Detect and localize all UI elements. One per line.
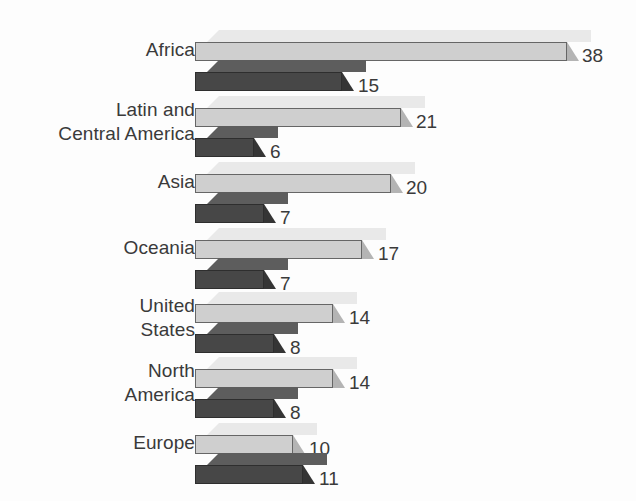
bar-side-face: [274, 322, 286, 353]
bar-top-face: [207, 126, 278, 138]
category-label: Latin and Central America: [5, 98, 195, 146]
bar-chart: Africa 38 15 Latin and Central America 2…: [0, 0, 636, 501]
bar-side-face: [333, 292, 345, 323]
bar-side-face: [254, 126, 266, 157]
category-label: Asia: [5, 170, 195, 194]
bar-side-face: [264, 192, 276, 223]
bar-side-face: [342, 60, 354, 91]
bar-front-face: [195, 435, 293, 454]
bar-front-face: [195, 270, 264, 289]
bar-value-label: 8: [290, 403, 301, 422]
bar-value-label: 7: [280, 274, 291, 293]
bar-value-label: 14: [349, 373, 370, 392]
bar-side-face: [293, 423, 305, 454]
bar-front-face: [195, 334, 274, 353]
bar-side-face: [401, 96, 413, 127]
bar-front-face: [195, 240, 362, 259]
bar-side-face: [391, 162, 403, 193]
bar-value-label: 6: [270, 142, 281, 161]
category-label: North America: [5, 359, 195, 407]
bar-front-face: [195, 42, 567, 61]
bar-side-face: [264, 258, 276, 289]
bar-front-face: [195, 108, 401, 127]
category-label: Africa: [5, 38, 195, 62]
bar-value-label: 15: [358, 76, 379, 95]
bar-front-face: [195, 369, 333, 388]
category-label: Europe: [5, 431, 195, 455]
bar-front-face: [195, 304, 333, 323]
bar-front-face: [195, 174, 391, 193]
bar-value-label: 14: [349, 308, 370, 327]
bar-value-label: 38: [582, 46, 603, 65]
bar-top-face: [207, 96, 425, 108]
bar-side-face: [333, 357, 345, 388]
bar-side-face: [274, 387, 286, 418]
bar-value-label: 7: [280, 208, 291, 227]
bar-value-label: 17: [378, 244, 399, 263]
bar-top-face: [207, 30, 591, 42]
bar-top-face: [207, 162, 415, 174]
bar-side-face: [567, 30, 579, 61]
bar-value-label: 11: [319, 469, 339, 488]
category-label: United States: [5, 294, 195, 342]
bar-front-face: [195, 138, 254, 157]
bar-top-face: [207, 228, 386, 240]
bar-value-label: 21: [416, 112, 437, 131]
bar-front-face: [195, 72, 342, 91]
bar-front-face: [195, 465, 303, 484]
bar-front-face: [195, 399, 274, 418]
bar-front-face: [195, 204, 264, 223]
bar-value-label: 20: [406, 178, 427, 197]
category-label: Oceania: [5, 236, 195, 260]
bar-value-label: 8: [290, 338, 301, 357]
bar-side-face: [362, 228, 374, 259]
bar-side-face: [303, 453, 315, 484]
